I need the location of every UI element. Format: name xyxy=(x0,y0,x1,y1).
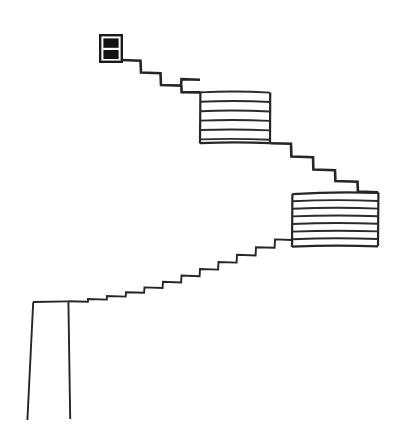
hatch-block-upper-line-3 xyxy=(200,111,270,112)
window-icon-pane-top xyxy=(103,38,118,47)
hatch-block-lower-line-6 xyxy=(292,238,378,239)
hatch-block-lower-line-4 xyxy=(292,223,378,224)
window-icon-pane-bottom xyxy=(103,50,118,59)
hatch-block-lower-line-3 xyxy=(292,215,378,216)
hatch-block-lower-line-2 xyxy=(292,208,378,209)
hatch-block-upper-line-5 xyxy=(200,129,270,130)
hatch-block-upper-bottom-edge xyxy=(200,142,270,143)
drawing-canvas: Staircase Line Drawing window Upper desc… xyxy=(0,0,411,430)
hatch-block-upper-line-4 xyxy=(200,120,270,121)
hatch-block-lower-line-1 xyxy=(292,200,378,201)
hatch-block-upper-line-2 xyxy=(200,101,270,102)
post-ledge xyxy=(33,301,68,302)
hatch-block-lower-bottom-edge xyxy=(292,246,378,247)
hatch-block-upper-line-1 xyxy=(200,92,270,93)
staircase-line-drawing xyxy=(0,0,411,430)
hatch-block-lower-line-5 xyxy=(292,231,378,232)
hatch-block-upper-line-6 xyxy=(200,139,270,140)
